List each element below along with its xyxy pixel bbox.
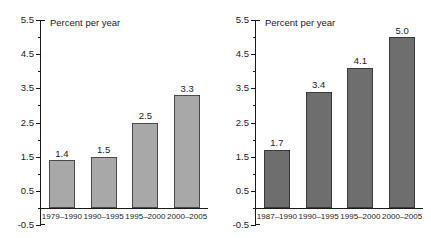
y-axis-tick-label: 2.5 [236, 118, 249, 128]
plot-area-right: Percent per year 5.54.53.52.51.50.5-0.5 … [255, 20, 423, 225]
y-axis-tick-label: 2.5 [21, 118, 34, 128]
bar-value-label: 1.7 [270, 138, 283, 148]
bar: 1.7 [264, 150, 290, 208]
y-axis-major-tick [251, 225, 256, 226]
bar: 2.5 [132, 123, 158, 208]
x-axis-tick-label: 2000–2005 [166, 213, 208, 221]
bar-slot: 2.5 [125, 20, 167, 208]
plot-area-left: Percent per year 5.54.53.52.51.50.5-0.5 … [40, 20, 208, 225]
bar-value-label: 4.1 [354, 56, 367, 66]
bar-value-label: 5.0 [396, 26, 409, 36]
bar-slot: 3.3 [166, 20, 208, 208]
bar-value-label: 3.3 [181, 84, 194, 94]
bar: 1.4 [49, 160, 75, 208]
x-axis-tick-label: 1990–1995 [83, 213, 125, 221]
y-axis-tick-label: -0.5 [18, 220, 34, 230]
y-axis-tick-label: 1.5 [21, 152, 34, 162]
y-axis-tick-label: 5.5 [21, 15, 34, 25]
bar: 1.5 [91, 157, 117, 208]
figure: Percent per year 5.54.53.52.51.50.5-0.5 … [0, 0, 431, 238]
bar-value-label: 1.4 [55, 149, 68, 159]
bar: 4.1 [347, 68, 373, 208]
y-axis-tick-label: 5.5 [236, 15, 249, 25]
chart-panel-left: Percent per year 5.54.53.52.51.50.5-0.5 … [0, 0, 216, 238]
bar-group-left: 1.41.52.53.3 [41, 20, 208, 208]
bar-slot: 1.7 [256, 20, 298, 208]
zero-baseline [40, 208, 208, 210]
y-axis-tick-label: 3.5 [21, 84, 34, 94]
zero-baseline [255, 208, 423, 210]
bar-slot: 5.0 [381, 20, 423, 208]
bar-slot: 1.4 [41, 20, 83, 208]
y-axis-tick-label: 4.5 [236, 49, 249, 59]
x-axis-tick-label: 1990–1995 [298, 213, 340, 221]
y-axis-tick-label: 3.5 [236, 84, 249, 94]
x-axis-labels-right: 1987–19901990–19951995–20002000–2005 [256, 213, 423, 221]
bar-slot: 1.5 [83, 20, 125, 208]
bar-slot: 4.1 [340, 20, 382, 208]
y-axis-tick-label: 0.5 [21, 186, 34, 196]
y-axis-tick-label: -0.5 [233, 220, 249, 230]
chart-panel-right: Percent per year 5.54.53.52.51.50.5-0.5 … [215, 0, 431, 238]
bar-slot: 3.4 [298, 20, 340, 208]
bar: 3.4 [306, 92, 332, 208]
y-axis-tick-label: 0.5 [236, 186, 249, 196]
y-axis-major-tick [36, 225, 41, 226]
y-axis-tick-label: 1.5 [236, 152, 249, 162]
bar-group-right: 1.73.44.15.0 [256, 20, 423, 208]
x-axis-tick-label: 1987–1990 [256, 213, 298, 221]
bar: 3.3 [174, 95, 200, 208]
x-axis-tick-label: 1995–2000 [340, 213, 382, 221]
bar-value-label: 2.5 [139, 111, 152, 121]
y-axis-tick-label: 4.5 [21, 49, 34, 59]
bar: 5.0 [389, 37, 415, 208]
x-axis-tick-label: 1995–2000 [125, 213, 167, 221]
x-axis-labels-left: 1979–19901990–19951995–20002000–2005 [41, 213, 208, 221]
bar-value-label: 1.5 [97, 145, 110, 155]
x-axis-tick-label: 1979–1990 [41, 213, 83, 221]
bar-value-label: 3.4 [312, 80, 325, 90]
x-axis-tick-label: 2000–2005 [381, 213, 423, 221]
